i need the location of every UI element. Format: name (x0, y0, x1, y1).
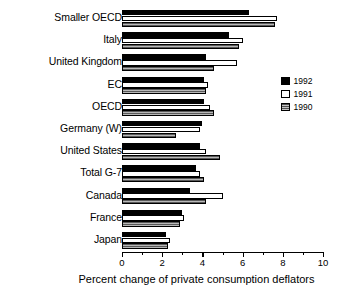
bar-1990 (122, 221, 180, 226)
category-label: Japan (2, 233, 122, 245)
bar-1990 (122, 66, 214, 71)
legend-label-1992: 1992 (294, 76, 313, 86)
bar-1991 (122, 149, 206, 154)
x-axis-tick-label: 8 (280, 257, 285, 268)
bar-1991 (122, 215, 184, 220)
chart-legend: 1992 1991 1990 (281, 75, 312, 114)
chart-category-row: Smaller OECD (0, 8, 339, 30)
bar-1990 (122, 133, 176, 138)
category-label: Smaller OECD (2, 11, 122, 23)
bar-1990 (122, 155, 220, 160)
bar-1991 (122, 60, 237, 65)
bar-1991 (122, 127, 200, 132)
chart-category-row: Canada (0, 186, 339, 208)
bar-group (122, 32, 334, 51)
bar-1992 (122, 10, 249, 15)
chart-category-row: Germany (W) (0, 119, 339, 141)
x-axis-tick-label: 2 (160, 257, 165, 268)
bar-1991 (122, 193, 223, 198)
bar-1992 (122, 99, 204, 104)
x-axis-tick (182, 252, 183, 255)
bar-group (122, 120, 334, 139)
chart-category-row: United Kingdom (0, 52, 339, 74)
bar-1992 (122, 210, 182, 215)
legend-label-1990: 1990 (294, 102, 313, 112)
category-label: United Kingdom (2, 55, 122, 67)
bar-1991 (122, 238, 170, 243)
bar-group (122, 10, 334, 29)
legend-item-1992: 1992 (281, 75, 312, 87)
category-label: Total G-7 (2, 166, 122, 178)
x-axis-tick (303, 252, 304, 255)
bar-group (122, 143, 334, 162)
x-axis-title: Percent change of private consumption de… (0, 272, 339, 286)
bar-group (122, 187, 334, 206)
category-label: Italy (2, 33, 122, 45)
bar-1990 (122, 44, 239, 49)
legend-item-1991: 1991 (281, 88, 312, 100)
category-label: OECD (2, 100, 122, 112)
plot-area: Smaller OECDItalyUnited KingdomECOECDGer… (0, 8, 339, 252)
legend-item-1990: 1990 (281, 101, 312, 113)
chart-category-row: United States (0, 141, 339, 163)
legend-swatch-icon-1992 (281, 77, 290, 86)
bar-1992 (122, 77, 204, 82)
bar-1992 (122, 121, 202, 126)
bar-1992 (122, 32, 229, 37)
bar-1991 (122, 38, 243, 43)
legend-swatch-icon-1991 (281, 90, 290, 99)
x-axis-tick (142, 252, 143, 255)
bar-1990 (122, 199, 206, 204)
bar-1992 (122, 188, 190, 193)
x-axis-tick (223, 252, 224, 255)
x-axis-tick-label: 4 (200, 257, 205, 268)
chart-category-row: Japan (0, 230, 339, 252)
bar-1991 (122, 105, 210, 110)
bar-1991 (122, 171, 200, 176)
category-label: Canada (2, 189, 122, 201)
category-label: Germany (W) (2, 122, 122, 134)
category-label: EC (2, 78, 122, 90)
chart-category-row: France (0, 208, 339, 230)
category-label: United States (2, 144, 122, 156)
legend-label-1991: 1991 (294, 89, 313, 99)
x-axis-tick-label: 6 (240, 257, 245, 268)
chart-category-row: Total G-7 (0, 163, 339, 185)
chart-category-row: Italy (0, 30, 339, 52)
bar-group (122, 165, 334, 184)
bar-1992 (122, 232, 166, 237)
bar-group (122, 54, 334, 73)
bar-1990 (122, 88, 206, 93)
legend-swatch-icon-1990 (281, 103, 290, 112)
x-axis-tick-label: 10 (318, 257, 329, 268)
bar-1990 (122, 22, 275, 27)
bar-1990 (122, 177, 204, 182)
bar-1991 (122, 16, 277, 21)
bar-chart: Smaller OECDItalyUnited KingdomECOECDGer… (0, 0, 339, 301)
category-label: France (2, 211, 122, 223)
x-axis (122, 252, 323, 253)
bar-1992 (122, 143, 200, 148)
bar-group (122, 209, 334, 228)
bar-1990 (122, 243, 168, 248)
bar-1990 (122, 110, 214, 115)
bar-1991 (122, 82, 208, 87)
x-axis-tick (263, 252, 264, 255)
bar-1992 (122, 54, 206, 59)
x-axis-tick-label: 0 (119, 257, 124, 268)
bar-1992 (122, 165, 196, 170)
bar-group (122, 231, 334, 250)
